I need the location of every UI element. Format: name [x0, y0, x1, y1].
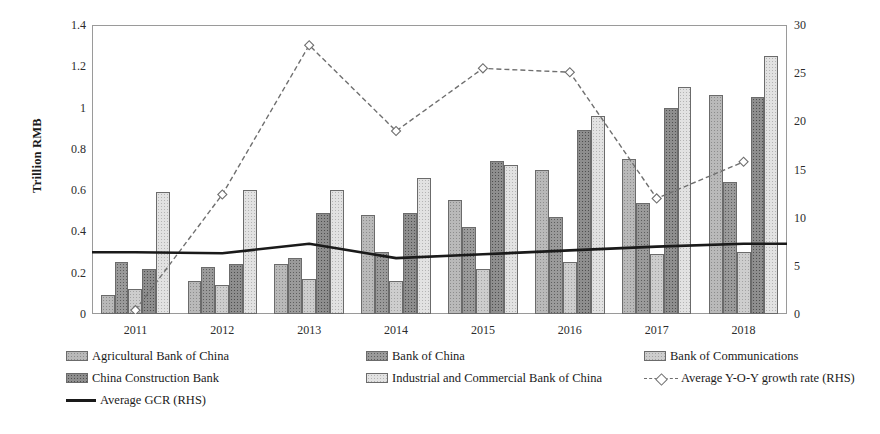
growth-rate-marker: [652, 194, 661, 203]
legend-dashed-line-icon: [644, 373, 678, 383]
legend-item[interactable]: Average GCR (RHS): [66, 389, 366, 411]
legend-swatch-icon: [366, 351, 388, 361]
y-tick-right-30: 30: [794, 18, 806, 33]
legend-item[interactable]: Bank of China: [366, 345, 644, 367]
legend-label: Bank of Communications: [670, 345, 798, 367]
x-tick-2018: 2018: [732, 323, 756, 338]
y-axis-title-left: Trillion RMB: [30, 96, 45, 216]
growth-rate-line: [131, 41, 748, 314]
y-tick-right-0: 0: [794, 307, 800, 322]
y-tick-left-1: 1: [80, 100, 86, 115]
x-tick-2017: 2017: [645, 323, 669, 338]
legend-swatch-icon: [644, 351, 666, 361]
y-tick-right-20: 20: [794, 114, 806, 129]
x-tick-2016: 2016: [558, 323, 582, 338]
average-gcr-line: [92, 244, 787, 258]
legend-swatch-icon: [366, 373, 388, 383]
x-tick-2015: 2015: [471, 323, 495, 338]
x-tick-2011: 2011: [124, 323, 148, 338]
legend-label: China Construction Bank: [92, 367, 219, 389]
legend-label: Bank of China: [392, 345, 465, 367]
legend-item[interactable]: Bank of Communications: [644, 345, 798, 367]
x-tick-2013: 2013: [297, 323, 321, 338]
y-tick-right-15: 15: [794, 162, 806, 177]
chart-figure: Trillion RMB Percentage 00.20.40.60.811.…: [0, 0, 880, 434]
x-tick-2014: 2014: [384, 323, 408, 338]
legend-label: Average Y-O-Y growth rate (RHS): [681, 367, 855, 389]
legend-item[interactable]: Average Y-O-Y growth rate (RHS): [644, 367, 855, 389]
growth-rate-marker: [739, 157, 748, 166]
y-tick-left-0.4: 0.4: [71, 224, 86, 239]
x-tick-2012: 2012: [210, 323, 234, 338]
y-tick-left-1.2: 1.2: [71, 59, 86, 74]
legend-swatch-icon: [66, 351, 88, 361]
lines-layer: [92, 25, 787, 314]
y-tick-left-1.4: 1.4: [71, 18, 86, 33]
legend-row: Agricultural Bank of ChinaBank of ChinaB…: [66, 345, 856, 367]
legend-label: Average GCR (RHS): [100, 389, 206, 411]
legend-solid-line-icon: [66, 395, 96, 405]
y-tick-right-10: 10: [794, 210, 806, 225]
y-tick-right-25: 25: [794, 66, 806, 81]
legend-label: Industrial and Commercial Bank of China: [392, 367, 602, 389]
chart-legend: Agricultural Bank of ChinaBank of ChinaB…: [66, 345, 856, 411]
legend-item[interactable]: Agricultural Bank of China: [66, 345, 366, 367]
plot-area: [92, 25, 787, 314]
legend-row: China Construction BankIndustrial and Co…: [66, 367, 856, 389]
growth-rate-marker: [478, 64, 487, 73]
legend-swatch-icon: [66, 373, 88, 383]
legend-row: Average GCR (RHS): [66, 389, 856, 411]
y-tick-left-0.2: 0.2: [71, 265, 86, 280]
legend-item[interactable]: Industrial and Commercial Bank of China: [366, 367, 644, 389]
legend-item[interactable]: China Construction Bank: [66, 367, 366, 389]
legend-label: Agricultural Bank of China: [92, 345, 229, 367]
y-tick-left-0.8: 0.8: [71, 141, 86, 156]
y-tick-right-5: 5: [794, 258, 800, 273]
growth-rate-marker: [565, 68, 574, 77]
y-tick-left-0: 0: [80, 307, 86, 322]
y-tick-left-0.6: 0.6: [71, 183, 86, 198]
